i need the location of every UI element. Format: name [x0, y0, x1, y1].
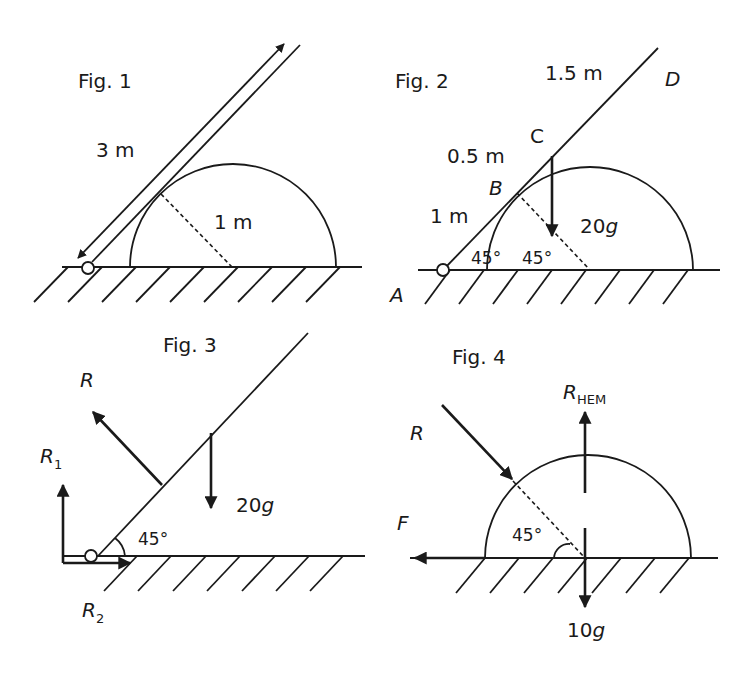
angle-radius-label: 45° — [522, 248, 552, 268]
hemisphere-reaction-label: RHEM — [563, 380, 606, 407]
ground-hatching — [456, 558, 689, 593]
weight-label: 20g — [580, 214, 618, 238]
rod-length-label: 3 m — [96, 138, 135, 162]
point-B: B — [489, 176, 503, 200]
friction-label: F — [397, 511, 409, 535]
ground-hatching — [104, 556, 343, 591]
point-C: C — [530, 124, 544, 148]
fig4-title: Fig. 4 — [452, 345, 506, 369]
reaction-r2-label: R2 — [82, 598, 104, 626]
fig1-title: Fig. 1 — [78, 69, 132, 93]
radius-dashed — [513, 481, 585, 558]
ground-hatching — [425, 270, 688, 304]
hinge-icon — [85, 550, 97, 562]
angle-arc — [554, 544, 570, 558]
mechanics-diagram: Fig. 1 3 m 1 m Fig. 2 — [0, 0, 751, 675]
label-1m: 1 m — [430, 204, 469, 228]
rod-reaction-arrow — [442, 405, 512, 479]
hinge-icon — [82, 262, 94, 274]
rod — [98, 333, 308, 556]
fig3-title: Fig. 3 — [163, 333, 217, 357]
figure-3: Fig. 3 R R1 R2 20g 45° — [40, 333, 365, 626]
figure-2: Fig. 2 1.5 m D C 0.5 m B 1 m 45° 45° 20g… — [388, 48, 720, 307]
normal-reaction-label: R — [80, 368, 94, 392]
figure-4: Fig. 4 R RHEM F 45° 10g — [397, 345, 718, 642]
label-1-5m: 1.5 m — [545, 61, 603, 85]
point-D: D — [665, 67, 680, 91]
weight-label: 20g — [236, 493, 274, 517]
label-0-5m: 0.5 m — [447, 144, 505, 168]
reaction-r1-label: R1 — [40, 444, 62, 472]
angle-rod-label: 45° — [471, 248, 501, 268]
point-A: A — [388, 283, 404, 307]
angle-arc — [115, 538, 125, 556]
radius-label: 1 m — [214, 210, 253, 234]
weight-label: 10g — [567, 618, 605, 642]
figure-1: Fig. 1 3 m 1 m — [34, 44, 362, 302]
fig2-title: Fig. 2 — [395, 69, 449, 93]
normal-reaction-arrow — [93, 412, 162, 485]
hinge-icon — [437, 264, 449, 276]
angle-label: 45° — [138, 529, 168, 549]
rod-reaction-label: R — [410, 421, 424, 445]
angle-label: 45° — [512, 525, 542, 545]
ground-hatching — [34, 267, 340, 302]
